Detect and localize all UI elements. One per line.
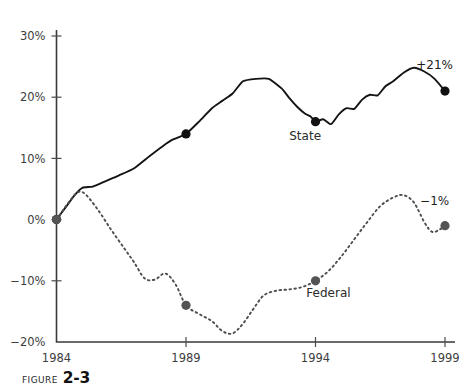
data-marker-state (440, 86, 449, 95)
line-chart: 30%20%10%0%−10%−20% 1984198919941999 Sta… (0, 0, 473, 389)
endpoint-annotation-federal: −1% (420, 194, 449, 208)
endpoint-annotation-state: +21% (416, 58, 453, 72)
x-tick-label: 1994 (301, 351, 330, 365)
data-marker-state (181, 129, 190, 138)
chart-axes (57, 30, 456, 342)
figure-caption-number: 2-3 (63, 369, 90, 387)
data-marker-federal (311, 276, 320, 285)
y-tick-label: 30% (20, 29, 46, 43)
y-tick-label: −20% (10, 335, 45, 349)
data-point-markers (52, 86, 450, 309)
data-marker-federal (52, 215, 61, 224)
figure-container: 30%20%10%0%−10%−20% 1984198919941999 Sta… (0, 0, 473, 389)
y-tick-label: 10% (20, 152, 46, 166)
x-tick-label: 1984 (42, 351, 71, 365)
data-marker-federal (181, 301, 190, 310)
y-axis-ticks: 30%20%10%0%−10%−20% (10, 29, 61, 349)
data-series-group (57, 68, 446, 334)
data-marker-federal (440, 221, 449, 230)
figure-caption-prefix: FIGURE (22, 375, 58, 385)
axis-lines (57, 30, 456, 342)
y-tick-label: 20% (20, 90, 46, 104)
series-line-federal (57, 191, 446, 333)
series-line-state (57, 68, 446, 220)
data-marker-state (311, 117, 320, 126)
figure-caption: FIGURE 2-3 (22, 369, 90, 387)
series-label-state: State (289, 129, 321, 143)
series-label-federal: Federal (306, 286, 350, 300)
x-tick-label: 1989 (171, 351, 200, 365)
x-tick-label: 1999 (430, 351, 459, 365)
y-tick-label: −10% (10, 274, 45, 288)
y-tick-label: 0% (27, 213, 45, 227)
